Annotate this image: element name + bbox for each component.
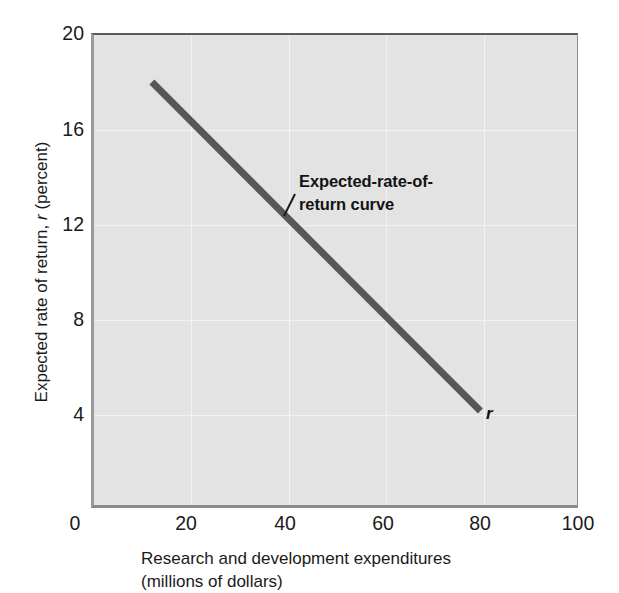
annotation-pointer-icon [282, 192, 298, 218]
x-tick-label-20: 20 [175, 512, 197, 535]
x-tick-label-80: 80 [469, 512, 491, 535]
x-axis-tick-labels: 0 20 40 60 80 100 [0, 512, 619, 542]
x-axis-title-line2: (millions of dollars) [141, 570, 451, 593]
x-tick-label-100: 100 [562, 512, 595, 535]
x-tick-label-60: 60 [372, 512, 394, 535]
curve-annotation-line2: return curve [299, 193, 433, 216]
x-tick-label-40: 40 [274, 512, 296, 535]
expected-rate-of-return-curve [94, 35, 577, 505]
y-axis-title-suffix: (percent) [32, 142, 51, 215]
y-axis-title-symbol: r [32, 214, 51, 220]
plot-inner [94, 35, 577, 505]
curve-annotation-line1: Expected-rate-of- [299, 170, 433, 193]
x-axis-title-line1: Research and development expenditures [141, 547, 451, 570]
y-tick-label-20: 20 [0, 22, 84, 45]
y-axis-title: Expected rate of return, r (percent) [32, 62, 52, 482]
y-axis-title-prefix: Expected rate of return, [32, 220, 51, 402]
curve-annotation-label: Expected-rate-of- return curve [299, 170, 433, 217]
x-axis-title: Research and development expenditures (m… [141, 547, 451, 593]
curve-line [152, 82, 480, 411]
expected-rate-of-return-chart: Expected-rate-of- return curve r 20 16 1… [0, 0, 619, 593]
curve-endpoint-label: r [486, 404, 493, 424]
plot-area [91, 33, 578, 508]
x-tick-label-0: 0 [70, 512, 81, 535]
